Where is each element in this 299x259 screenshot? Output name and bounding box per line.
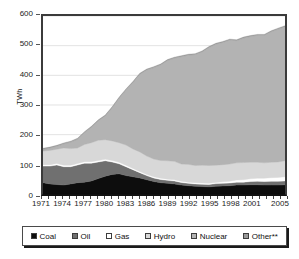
y-axis-tick-label: 400: [20, 71, 33, 79]
legend-swatch-icon: [243, 233, 249, 239]
x-axis-tick-label: 1971: [30, 199, 52, 209]
x-axis-tick-label: 1986: [135, 199, 157, 209]
area-series-nuclear: [43, 27, 285, 166]
x-axis-tick-label: 1974: [51, 199, 73, 209]
legend-item-nuclear[interactable]: Nuclear: [191, 232, 227, 241]
x-axis-tick-label: 1980: [93, 199, 115, 209]
x-axis-tick-label: 1992: [178, 199, 200, 209]
legend-label: Nuclear: [200, 232, 228, 241]
legend-label: Hydro: [154, 232, 175, 241]
y-axis-tick: [36, 44, 40, 45]
y-axis-tick-label: 500: [20, 40, 33, 48]
y-axis-tick: [36, 196, 40, 197]
plot-area: [41, 14, 287, 196]
y-axis-tick-label: 600: [20, 10, 33, 18]
y-axis: TWh 0100200300400500600: [0, 0, 38, 210]
plot-inner: [43, 16, 285, 194]
y-axis-tick: [36, 135, 40, 136]
chart-legend: CoalOilGasHydroNuclearOther**: [22, 226, 287, 246]
legend-label: Gas: [115, 232, 130, 241]
x-axis-tick-label: 1989: [157, 199, 179, 209]
legend-label: Coal: [39, 232, 55, 241]
y-axis-tick: [36, 105, 40, 106]
legend-item-coal[interactable]: Coal: [31, 232, 56, 241]
x-axis-tick-label: 1995: [199, 199, 221, 209]
x-axis-labels: 1971197419771980198319861989199219951998…: [0, 199, 299, 211]
legend-item-gas[interactable]: Gas: [106, 232, 129, 241]
legend-label: Other**: [252, 232, 278, 241]
stacked-area-chart: TWh 0100200300400500600 1971197419771980…: [0, 0, 299, 259]
legend-swatch-icon: [145, 233, 151, 239]
x-axis-tick-label: 1998: [220, 199, 242, 209]
x-axis-tick-label: 1977: [72, 199, 94, 209]
legend-swatch-icon: [31, 233, 37, 239]
y-axis-tick-label: 200: [20, 131, 33, 139]
x-axis-tick-label: 2005: [269, 199, 291, 209]
legend-item-other[interactable]: Other**: [243, 232, 278, 241]
x-axis-tick-label: 2001: [241, 199, 263, 209]
legend-item-hydro[interactable]: Hydro: [145, 232, 175, 241]
legend-item-oil[interactable]: Oil: [72, 232, 90, 241]
y-axis-tick: [36, 75, 40, 76]
y-axis-tick-label: 100: [20, 162, 33, 170]
legend-swatch-icon: [72, 233, 78, 239]
legend-swatch-icon: [191, 233, 197, 239]
y-axis-title: TWh: [15, 77, 24, 117]
area-series-svg: [43, 16, 285, 194]
legend-label: Oil: [80, 232, 90, 241]
y-axis-tick-label: 300: [20, 101, 33, 109]
y-axis-tick: [36, 166, 40, 167]
legend-swatch-icon: [106, 233, 112, 239]
x-axis-tick-label: 1983: [114, 199, 136, 209]
y-axis-tick: [36, 14, 40, 15]
